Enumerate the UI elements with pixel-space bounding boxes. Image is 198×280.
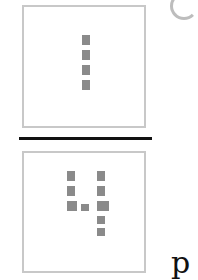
dot: [81, 204, 89, 211]
dot: [82, 50, 90, 60]
cut-off-text: p: [171, 248, 190, 278]
dot: [97, 228, 105, 236]
dot: [97, 171, 105, 181]
dot: [82, 65, 90, 75]
dot: [67, 171, 75, 181]
fraction-bar: [19, 137, 152, 140]
dot: [97, 186, 105, 196]
dot: [67, 186, 75, 196]
dot: [82, 35, 90, 45]
dot: [97, 216, 105, 224]
corner-mark: [170, 0, 198, 20]
dot: [82, 80, 90, 90]
dot: [67, 201, 77, 211]
numerator-digit-box: [22, 5, 146, 128]
denominator-digit-box: [22, 151, 146, 273]
dot: [97, 201, 109, 211]
